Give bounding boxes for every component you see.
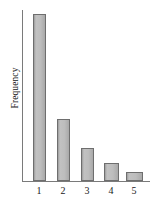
- x-tick-label-4: 4: [101, 185, 121, 196]
- bar-5: [126, 172, 143, 181]
- frequency-bar-chart: Frequency 12345: [0, 0, 162, 202]
- bar-1: [33, 14, 46, 181]
- bar-3: [81, 148, 94, 181]
- x-axis-line: [22, 181, 150, 182]
- bar-4: [104, 163, 119, 181]
- bar-2: [57, 119, 70, 181]
- x-tick-label-1: 1: [29, 185, 49, 196]
- x-tick-label-5: 5: [124, 185, 144, 196]
- plot-area: [22, 10, 150, 181]
- y-axis-title: Frequency: [10, 48, 20, 128]
- x-tick-label-2: 2: [53, 185, 73, 196]
- x-tick-label-3: 3: [77, 185, 97, 196]
